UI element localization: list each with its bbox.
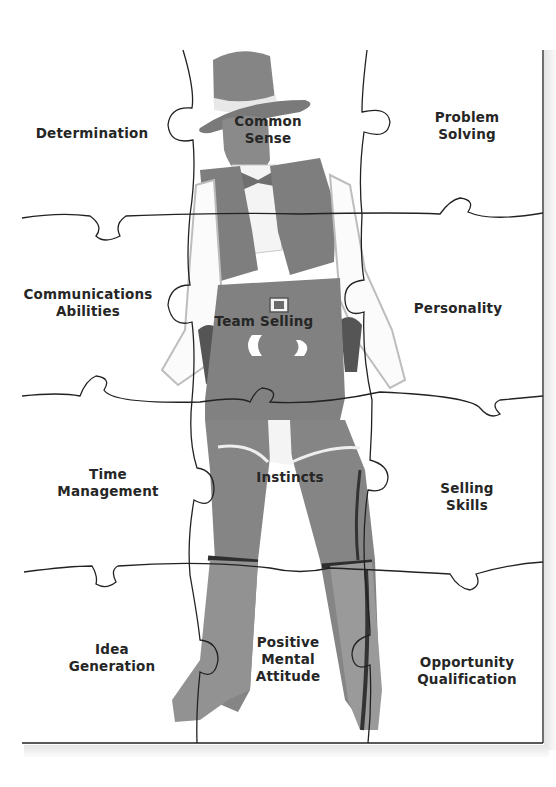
piece-determination: Determination bbox=[36, 125, 149, 142]
piece-label-line: Mental bbox=[256, 651, 320, 668]
piece-label-line: Team Selling bbox=[215, 313, 314, 330]
piece-label-line: Solving bbox=[435, 126, 500, 143]
piece-label-line: Sense bbox=[234, 130, 301, 147]
piece-label-line: Abilities bbox=[23, 303, 152, 320]
piece-label-line: Common bbox=[234, 113, 301, 130]
piece-label-line: Personality bbox=[414, 300, 502, 317]
piece-label-line: Skills bbox=[440, 497, 493, 514]
piece-selling-skills: Selling Skills bbox=[440, 480, 493, 514]
piece-label-line: Communications bbox=[23, 286, 152, 303]
piece-label-line: Instincts bbox=[256, 469, 324, 486]
piece-label-line: Time bbox=[57, 466, 158, 483]
piece-problem-solving: Problem Solving bbox=[435, 109, 500, 143]
piece-common-sense: Common Sense bbox=[234, 113, 301, 147]
piece-team-selling: Team Selling bbox=[215, 313, 314, 330]
piece-time-management: Time Management bbox=[57, 466, 158, 500]
piece-label-line: Generation bbox=[69, 658, 156, 675]
piece-label-line: Determination bbox=[36, 125, 149, 142]
piece-positive-mental-attitude: Positive Mental Attitude bbox=[256, 634, 320, 685]
piece-label-line: Problem bbox=[435, 109, 500, 126]
piece-label-line: Opportunity bbox=[417, 654, 517, 671]
piece-label-line: Attitude bbox=[256, 668, 320, 685]
piece-label-line: Management bbox=[57, 483, 158, 500]
piece-opportunity-qualification: Opportunity Qualification bbox=[417, 654, 517, 688]
piece-label-line: Positive bbox=[256, 634, 320, 651]
piece-communications-abilities: Communications Abilities bbox=[23, 286, 152, 320]
piece-label-line: Selling bbox=[440, 480, 493, 497]
piece-personality: Personality bbox=[414, 300, 502, 317]
piece-label-line: Qualification bbox=[417, 671, 517, 688]
piece-idea-generation: Idea Generation bbox=[69, 641, 156, 675]
puzzle-diagram: Determination Common Sense Problem Solvi… bbox=[0, 0, 556, 787]
piece-instincts: Instincts bbox=[256, 469, 324, 486]
piece-label-line: Idea bbox=[69, 641, 156, 658]
